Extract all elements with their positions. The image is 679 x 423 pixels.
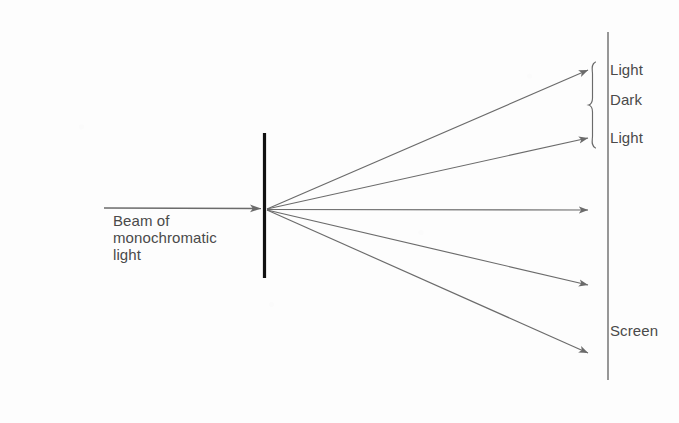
- screen-label: Screen: [610, 322, 658, 339]
- diffraction-diagram: Beam of monochromatic light Light Dark L…: [0, 0, 679, 423]
- diffracted-ray-2: [267, 138, 588, 209]
- diffracted-ray-5: [267, 210, 588, 353]
- light-band-bottom-label: Light: [610, 129, 643, 146]
- incoming-light-ray: [104, 208, 261, 209]
- fringe-brace: [589, 62, 596, 148]
- beam-label: Beam of monochromatic light: [113, 212, 217, 263]
- diffracted-ray-3: [267, 210, 588, 211]
- light-band-top-label: Light: [610, 61, 643, 78]
- dark-band-label: Dark: [610, 91, 642, 108]
- diagram-canvas: [0, 0, 679, 423]
- diffracted-ray-1: [267, 70, 588, 209]
- diffracted-ray-4: [267, 210, 588, 285]
